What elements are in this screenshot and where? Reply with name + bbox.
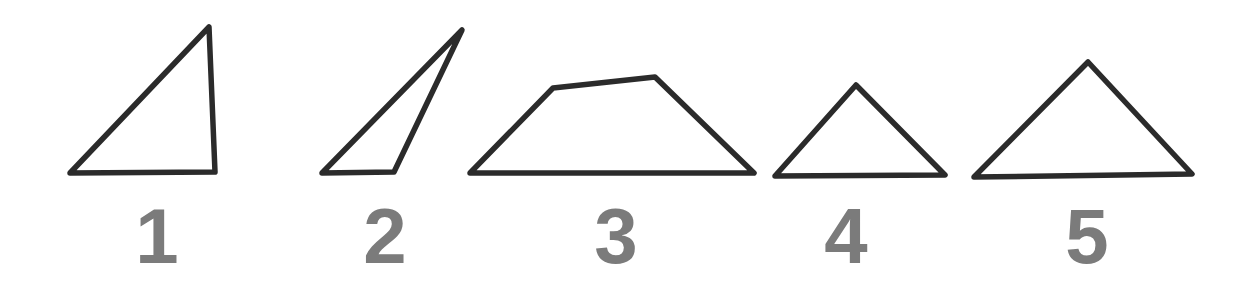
shape-4-isosceles-triangle[interactable] [775, 85, 945, 176]
shape-5-wide-isosceles-triangle[interactable] [974, 62, 1192, 177]
shape-label-2: 2 [363, 197, 406, 275]
shape-figure-canvas: 1 2 3 4 5 [0, 0, 1259, 292]
shape-1-right-triangle[interactable] [70, 27, 215, 173]
shape-label-3: 3 [594, 197, 637, 275]
shape-label-5: 5 [1065, 197, 1108, 275]
shape-label-1: 1 [135, 197, 178, 275]
shape-3-trapezoid[interactable] [470, 77, 754, 173]
shape-label-4: 4 [824, 197, 867, 275]
shape-2-narrow-scalene-triangle[interactable] [322, 30, 462, 173]
